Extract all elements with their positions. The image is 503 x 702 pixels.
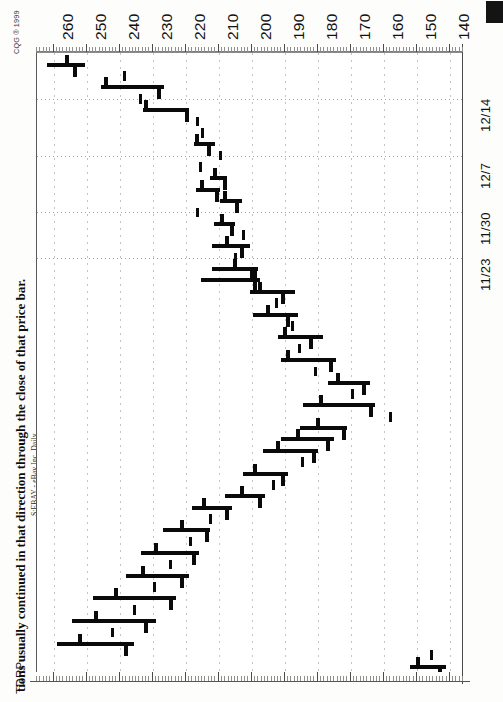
bar-close-tick <box>438 669 442 673</box>
bottom-tick <box>251 672 252 681</box>
bar-open-tick <box>195 134 199 144</box>
copyright-notice: CQG ® 1999 <box>12 10 21 54</box>
bar-range <box>196 208 199 218</box>
bottom-tick <box>185 672 186 681</box>
bar-range <box>242 230 245 240</box>
bar-close-tick <box>124 646 128 656</box>
bar-range <box>314 367 317 377</box>
bar-open-tick <box>319 395 323 405</box>
bar-close-tick <box>362 385 366 395</box>
price-tick <box>383 44 384 52</box>
bar-close-tick <box>157 89 161 99</box>
price-gridline <box>219 53 220 672</box>
bar-close-tick <box>205 532 209 542</box>
price-tick-label: 230 <box>158 14 176 40</box>
bottom-tick <box>53 672 54 681</box>
bottom-tick <box>152 672 153 681</box>
price-tick-label: 140 <box>455 14 473 40</box>
bar-open-tick <box>286 350 290 360</box>
bar-range <box>212 244 250 248</box>
bar-open-tick <box>144 100 148 110</box>
bar-range <box>169 560 172 570</box>
bar-range <box>111 628 114 638</box>
price-tick <box>185 44 186 52</box>
bar-range <box>163 528 211 532</box>
bar-open-tick <box>250 270 254 280</box>
bar-open-tick <box>416 657 420 667</box>
bar-range <box>189 537 192 547</box>
bar-close-tick <box>286 317 290 327</box>
price-tick <box>350 44 351 52</box>
price-tick <box>449 44 450 52</box>
bar-open-tick <box>266 305 270 315</box>
bar-close-tick <box>329 362 333 372</box>
bar-range <box>275 298 278 308</box>
bar-open-tick <box>200 180 204 190</box>
date-gridline <box>37 99 462 100</box>
bar-open-tick <box>258 282 262 292</box>
bar-open-tick <box>240 486 244 496</box>
price-gridline <box>153 53 154 672</box>
bar-range <box>303 403 376 407</box>
bar-open-tick <box>104 77 108 87</box>
bar-close-tick <box>169 600 173 610</box>
price-gridline <box>351 53 352 672</box>
bar-range <box>389 412 392 422</box>
bar-close-tick <box>225 510 229 520</box>
bar-open-tick <box>154 543 158 553</box>
plot-bottom-rule <box>30 681 470 682</box>
bar-open-tick <box>276 441 280 451</box>
bottom-tick <box>383 672 384 681</box>
bottom-tick <box>86 672 87 681</box>
date-tick-label: 11/23 <box>478 258 493 291</box>
price-tick-label: 250 <box>92 14 110 40</box>
bar-open-tick <box>202 498 206 508</box>
date-gridline <box>37 258 462 259</box>
chart-page: tions usually continued in that directio… <box>0 0 503 702</box>
price-tick-label: 240 <box>125 14 143 40</box>
bar-close-tick <box>369 407 373 417</box>
date-gridline <box>37 212 462 213</box>
bar-close-tick <box>192 555 196 565</box>
bar-range <box>351 389 354 399</box>
price-tick-label: 200 <box>257 14 275 40</box>
bottom-tick <box>449 672 450 681</box>
price-tick <box>317 44 318 52</box>
bar-close-tick <box>144 623 148 633</box>
bar-open-tick <box>94 611 98 621</box>
bar-range <box>196 117 199 127</box>
bottom-tick <box>284 672 285 681</box>
price-tick-label: 160 <box>389 14 407 40</box>
bar-close-tick <box>230 226 234 236</box>
bar-close-tick <box>281 476 285 486</box>
bar-close-tick <box>326 441 330 451</box>
plot-area <box>36 52 462 672</box>
price-tick-label: 260 <box>59 14 77 40</box>
bar-range <box>57 642 135 646</box>
bottom-axis-ticks <box>36 672 463 681</box>
bar-range <box>101 85 164 89</box>
price-gridline <box>87 53 88 672</box>
bar-open-tick <box>180 520 184 530</box>
date-tick-label: 12/14 <box>478 98 493 132</box>
bar-close-tick <box>215 192 219 202</box>
page-caption: tions usually continued in that directio… <box>13 279 29 692</box>
price-gridline <box>285 53 286 672</box>
bar-close-tick <box>207 146 211 156</box>
bar-range <box>298 344 301 354</box>
bar-open-tick <box>223 191 227 201</box>
date-tick-label: 11/30 <box>478 213 493 246</box>
bar-open-tick <box>213 168 217 178</box>
bar-close-tick <box>312 453 316 463</box>
bar-range <box>141 551 199 555</box>
bar-range <box>263 449 318 453</box>
bottom-tick <box>218 672 219 681</box>
bar-range <box>301 457 304 467</box>
price-tick <box>119 44 120 52</box>
price-gridline <box>384 53 385 672</box>
price-tick-label: 170 <box>356 14 374 40</box>
bar-close-tick <box>309 339 313 349</box>
price-tick-label: 180 <box>323 14 341 40</box>
plot-right-rule <box>462 44 463 684</box>
bar-close-tick <box>342 430 346 440</box>
